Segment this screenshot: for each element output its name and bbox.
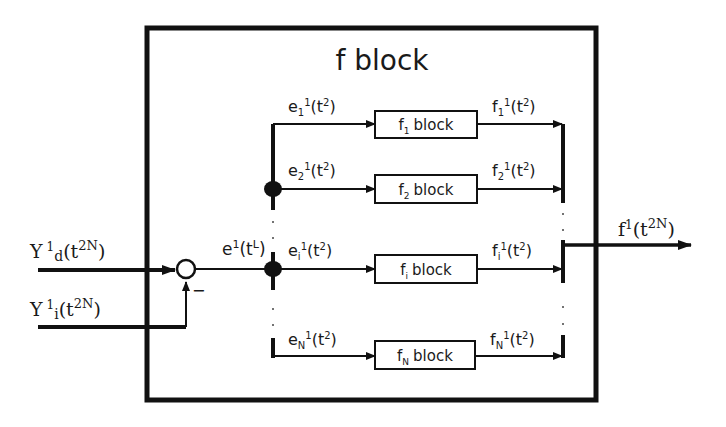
input-inner: Y1i(t2N) <box>29 282 186 327</box>
branch-n: eN1(t2) fNblock fN1(t2) <box>273 330 562 369</box>
error-signal-label: e1(tL) <box>222 238 266 259</box>
right-bus <box>562 124 564 358</box>
svg-text:fN1(t2): fN1(t2) <box>490 330 535 351</box>
svg-text:Y1d(t2N): Y1d(t2N) <box>29 238 105 264</box>
minus-sign: − <box>192 281 205 300</box>
left-bus <box>264 124 282 358</box>
svg-text:ei1(t2): ei1(t2) <box>288 241 332 262</box>
f-block-diagram: f block Y1d(t2N) Y1i(t2N) − e1(tL) <box>0 0 726 427</box>
svg-text:f1(t2N): f1(t2N) <box>618 216 675 240</box>
branch-2: e21(t2) f2block f21(t2) <box>273 161 562 203</box>
svg-text:f21(t2): f21(t2) <box>492 161 536 182</box>
branch-i: ei1(t2) fiblock fi1(t2) <box>273 241 562 283</box>
svg-text:eN1(t2): eN1(t2) <box>288 330 337 351</box>
summing-junction <box>177 260 195 278</box>
svg-text:fi1(t2): fi1(t2) <box>492 241 532 262</box>
output-signal: f1(t2N) <box>563 216 691 245</box>
svg-text:e21(t2): e21(t2) <box>288 161 336 182</box>
input-desired: Y1d(t2N) <box>29 238 175 270</box>
svg-text:e11(t2): e11(t2) <box>288 97 336 118</box>
svg-text:Y1i(t2N): Y1i(t2N) <box>29 296 101 322</box>
f-block-title: f block <box>335 44 429 77</box>
branch-1: e11(t2) f1block f11(t2) <box>273 97 562 138</box>
svg-text:f11(t2): f11(t2) <box>492 97 536 118</box>
